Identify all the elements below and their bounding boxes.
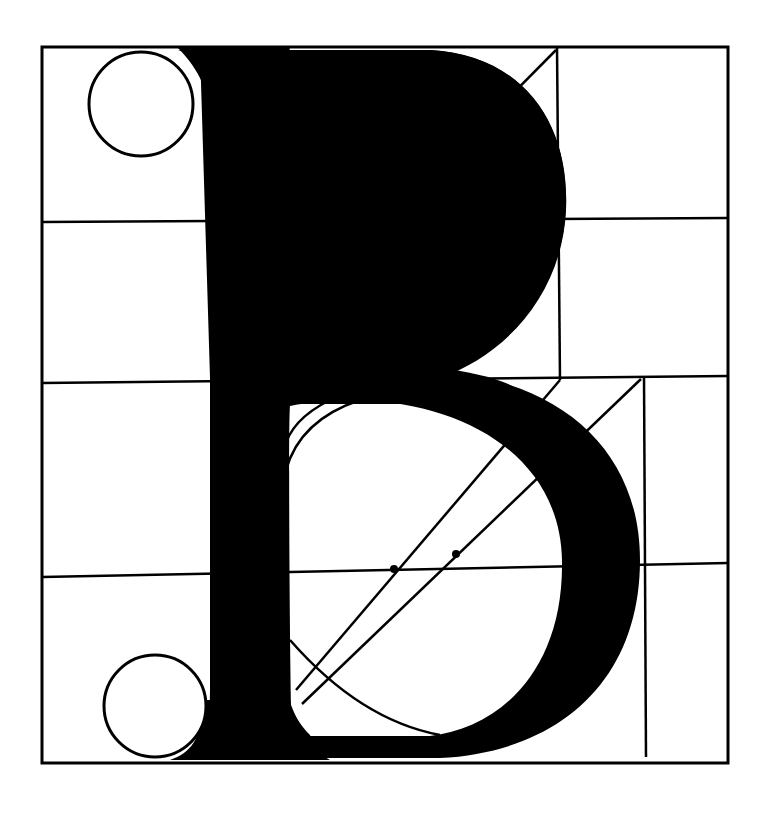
construction-dot [390, 214, 400, 224]
construction-dot [330, 215, 338, 223]
construction-dot [390, 565, 398, 573]
serif-circle [89, 52, 193, 156]
serif-circle [104, 655, 206, 757]
letter-b-construction-diagram [0, 0, 778, 821]
construction-dot [452, 550, 460, 558]
diagram-svg [0, 0, 778, 821]
